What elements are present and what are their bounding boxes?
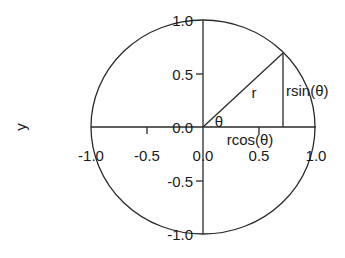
x-tick-label: 0.5 [249,147,270,164]
radius-label: r [252,84,257,101]
x-tick-label: -1.0 [78,147,104,164]
y-tick-label: -1.0 [167,226,193,243]
y-tick-label: 0.0 [172,119,193,136]
x-tick-label: 0.0 [193,147,214,164]
angle-label: θ [215,113,223,130]
sin-label: rsin(θ) [286,82,329,99]
cos-label: rcos(θ) [227,131,274,148]
y-axis-label: y [12,123,29,131]
x-tick-label: -0.5 [134,147,160,164]
x-tick-label: 1.0 [306,147,327,164]
y-tick-label: 1.0 [172,12,193,29]
y-tick-label: 0.5 [172,66,193,83]
unit-circle-diagram: 1.0 0.5 0.0 -0.5 -1.0 -1.0 -0.5 0.0 0.5 … [0,0,345,258]
y-tick-label: -0.5 [167,173,193,190]
